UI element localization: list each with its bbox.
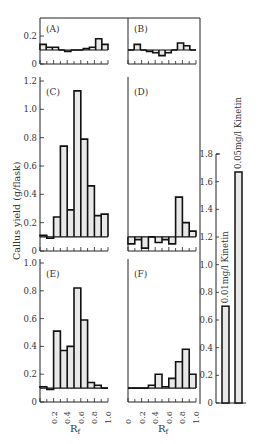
y-tick-label: 0.8 [23, 133, 37, 143]
y-tick-label: 0 [32, 246, 37, 256]
histogram-c [40, 91, 108, 238]
panel-c: 00.20.40.60.81.01.2(C) [23, 76, 108, 256]
panel-label: (D) [134, 87, 148, 97]
y-tick-label: 1.2 [23, 76, 37, 86]
x-tick-label: 0.8 [90, 411, 99, 424]
histogram-e [40, 288, 108, 389]
summary-bar-label: 0.01mg/l Kinetin [220, 231, 230, 303]
y-tick-label: 1.0 [23, 258, 37, 268]
y-tick-label: 0 [32, 397, 37, 407]
y-tick-label: 0.8 [199, 287, 213, 297]
x-tick-label: 0.6 [77, 411, 86, 424]
y-axis-label: Callus yield (g/flask) [11, 161, 22, 260]
y-tick-label: 1.8 [199, 149, 213, 159]
y-tick-label: 0 [208, 398, 213, 408]
x-tick-label: 0.2 [50, 411, 59, 424]
x-tick-label: 1.0 [104, 411, 113, 424]
y-tick-label: 1.2 [199, 232, 213, 242]
y-tick-label: 0.2 [23, 218, 37, 228]
panel-a: 00.2(A) [23, 18, 108, 69]
y-tick-label: 1.0 [23, 104, 37, 114]
y-tick-label: 0.4 [23, 189, 37, 199]
panel-e: 00.20.40.60.81.0(E)0.20.40.60.81.0 [23, 258, 113, 424]
panel-label: (F) [134, 269, 147, 279]
x-tick-label: 1.0 [192, 411, 201, 424]
panel-f: (F)00.20.40.60.81.0 [124, 259, 201, 424]
y-tick-label: 0.8 [23, 286, 37, 296]
summary-bar [235, 172, 242, 403]
x-tick-label: 0 [124, 419, 133, 424]
panel-label: (B) [134, 24, 148, 34]
histogram-panels: 00.2(A)(B)00.20.40.60.81.01.2(C)(D)00.20… [23, 18, 201, 424]
y-tick-label: 0.2 [23, 369, 37, 379]
summary-bar-chart: 00.20.40.60.81.01.21.41.61.80.01mg/l Kin… [199, 97, 246, 408]
y-tick-label: 0.6 [199, 315, 213, 325]
panel-label: (C) [46, 87, 60, 97]
x-tick-label: 0.2 [138, 411, 147, 424]
panel-d: (D) [128, 77, 196, 251]
y-tick-label: 0.6 [23, 314, 37, 324]
y-tick-label: 0.6 [23, 161, 37, 171]
y-tick-label: 0.4 [199, 343, 213, 353]
y-tick-label: 0.2 [199, 370, 213, 380]
x-tick-label: 0.6 [165, 411, 174, 424]
y-tick-label: 1.6 [199, 177, 213, 187]
summary-bar-label: 0.05mg/l Kinetin [233, 97, 243, 169]
panel-label: (E) [46, 269, 60, 279]
panel-label: (A) [46, 24, 60, 34]
summary-bar [222, 306, 229, 403]
panel-b: (B) [128, 18, 196, 64]
y-tick-label: 0.2 [23, 31, 37, 41]
x-tick-label: 0.8 [178, 411, 187, 424]
y-tick-label: 1.0 [199, 260, 213, 270]
y-tick-label: 0.4 [23, 341, 37, 351]
callus-yield-figure: 00.2(A)(B)00.20.40.60.81.01.2(C)(D)00.20… [0, 0, 260, 444]
y-tick-label: 1.4 [199, 204, 213, 214]
histogram-d [128, 197, 196, 248]
y-tick-label: 0 [32, 59, 37, 69]
